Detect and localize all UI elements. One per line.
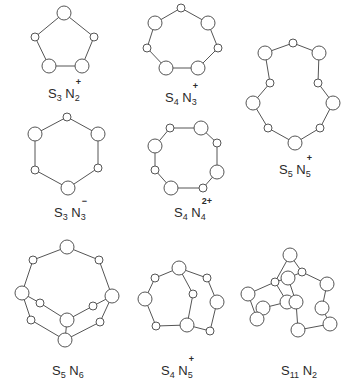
sulfur-atom-circle — [61, 181, 75, 195]
ion-charge: + — [76, 77, 81, 87]
nitrogen-atom-circle — [189, 290, 197, 298]
sulfur-atom-circle — [172, 261, 186, 275]
sulfur-atom-circle — [105, 289, 119, 303]
sulfur-atom-circle — [323, 317, 337, 331]
structure-s4n4 — [148, 121, 224, 195]
sulfur-atom-circle — [57, 6, 71, 20]
element-symbol: S — [165, 90, 174, 105]
atom-count: 11 — [290, 370, 299, 380]
atom-count: 5 — [288, 169, 293, 179]
nitrogen-atom-circle — [199, 184, 207, 192]
ion-charge: + — [189, 354, 194, 364]
element-symbol: N — [303, 363, 312, 378]
atom-count: 5 — [306, 169, 311, 179]
sulfur-atom-circle — [320, 277, 334, 291]
nitrogen-atom-circle — [177, 4, 185, 12]
sulfur-atom-circle — [201, 16, 215, 30]
structure-s4n5 — [138, 261, 224, 335]
element-symbol: N — [69, 363, 78, 378]
sulfur-atom-circle — [289, 295, 303, 309]
sulfur-atom-circle — [148, 139, 162, 153]
element-symbol: N — [191, 205, 200, 220]
element-symbol: S — [48, 86, 57, 101]
sulfur-atom-circle — [191, 61, 205, 75]
sulfur-atom-circle — [159, 61, 173, 75]
nitrogen-atom-circle — [89, 302, 97, 310]
structure-s3n3 — [28, 113, 105, 195]
atom-count: 3 — [192, 97, 197, 107]
formula-label-s3n2: S3 N2+ — [48, 86, 80, 103]
ion-charge: + — [193, 81, 198, 91]
sulfur-atom-circle — [241, 287, 255, 301]
element-symbol: N — [182, 90, 191, 105]
ion-charge: + — [307, 153, 312, 163]
molecular-structures-diagram — [0, 0, 348, 388]
nitrogen-atom-circle — [271, 278, 279, 286]
sulfur-atom-circle — [75, 59, 89, 73]
sulfur-atom-circle — [58, 333, 72, 347]
sulfur-atom-circle — [283, 248, 297, 262]
element-symbol: S — [279, 162, 288, 177]
nitrogen-atom-circle — [151, 166, 159, 174]
structure-s5n6 — [15, 240, 119, 347]
nitrogen-atom-circle — [36, 299, 44, 307]
structure-s11n2 — [241, 248, 337, 337]
nitrogen-atom-circle — [203, 274, 211, 282]
nitrogen-atom-circle — [29, 256, 37, 264]
element-symbol: N — [65, 86, 74, 101]
atom-count: 6 — [79, 370, 84, 380]
sulfur-atom-circle — [138, 292, 152, 306]
sulfur-atom-circle — [60, 240, 74, 254]
nitrogen-atom-circle — [152, 322, 160, 330]
sulfur-atom-circle — [210, 295, 224, 309]
atom-count: 5 — [188, 370, 193, 380]
sulfur-atom-circle — [28, 127, 42, 141]
atom-count: 3 — [63, 212, 68, 222]
sulfur-atom-circle — [258, 46, 272, 60]
sulfur-atom-circle — [148, 16, 162, 30]
atom-count: 5 — [61, 370, 66, 380]
formula-label-s4n4: S4 N42+ — [174, 205, 206, 222]
formula-label-s5n6: S5 N6 — [52, 363, 84, 380]
formula-label-s5n5: S5 N5+ — [279, 162, 311, 179]
sulfur-atom-circle — [164, 181, 178, 195]
nitrogen-atom-circle — [166, 124, 174, 132]
atom-count: 2 — [312, 370, 317, 380]
ion-charge: − — [82, 196, 87, 206]
nitrogen-atom-circle — [94, 164, 102, 172]
nitrogen-atom-circle — [264, 124, 272, 132]
sulfur-atom-circle — [250, 312, 264, 326]
nitrogen-atom-circle — [214, 44, 222, 52]
structure-s5n5 — [246, 39, 340, 150]
structure-s4n3 — [143, 4, 222, 75]
atom-count: 4 — [170, 370, 175, 380]
sulfur-atom-circle — [288, 136, 302, 150]
element-symbol: S — [281, 363, 290, 378]
nitrogen-atom-circle — [27, 316, 35, 324]
sulfur-atom-circle — [15, 286, 29, 300]
sulfur-atom-circle — [246, 96, 260, 110]
nitrogen-atom-circle — [316, 124, 324, 132]
sulfur-atom-circle — [312, 46, 326, 60]
sulfur-atom-circle — [281, 271, 295, 285]
nitrogen-atom-circle — [314, 79, 322, 87]
atom-count: 2 — [75, 93, 80, 103]
sulfur-atom-circle — [180, 318, 194, 332]
sulfur-atom-circle — [42, 59, 56, 73]
sulfur-atom-circle — [315, 301, 329, 315]
element-symbol: S — [54, 205, 63, 220]
ion-charge: 2+ — [202, 196, 212, 206]
nitrogen-atom-circle — [143, 44, 151, 52]
atom-count: 4 — [174, 97, 179, 107]
atom-count: 4 — [201, 212, 206, 222]
sulfur-atom-circle — [291, 323, 305, 337]
formula-label-s3n3: S3 N3− — [54, 205, 86, 222]
element-symbol: N — [71, 205, 80, 220]
nitrogen-atom-circle — [298, 268, 306, 276]
nitrogen-atom-circle — [289, 39, 297, 47]
sulfur-atom-circle — [91, 127, 105, 141]
nitrogen-atom-circle — [95, 256, 103, 264]
structure-s3n2 — [31, 6, 98, 73]
sulfur-atom-circle — [326, 96, 340, 110]
sulfur-atom-circle — [194, 121, 208, 135]
